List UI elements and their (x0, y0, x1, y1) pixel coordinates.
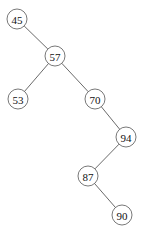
node-label: 87 (83, 171, 95, 183)
edge-57-70 (62, 63, 88, 91)
edge-57-53 (25, 64, 49, 92)
edge-45-57 (24, 26, 48, 49)
node-label: 45 (12, 14, 24, 26)
tree-node-90: 90 (112, 205, 132, 225)
node-label: 53 (13, 94, 25, 106)
tree-node-94: 94 (116, 127, 136, 147)
edge-70-94 (101, 107, 119, 130)
node-label: 90 (117, 210, 129, 222)
tree-node-53: 53 (8, 89, 28, 109)
tree-nodes: 45575370948790 (7, 9, 136, 225)
tree-node-57: 57 (45, 46, 65, 66)
tree-node-87: 87 (78, 166, 98, 186)
tree-edges (24, 26, 120, 207)
tree-node-45: 45 (7, 9, 27, 29)
edge-94-87 (95, 144, 119, 169)
edge-87-90 (95, 184, 116, 208)
node-label: 94 (121, 132, 133, 144)
tree-node-70: 70 (85, 89, 105, 109)
node-label: 70 (90, 94, 102, 106)
node-label: 57 (50, 51, 62, 63)
tree-diagram: 45575370948790 (0, 0, 145, 232)
